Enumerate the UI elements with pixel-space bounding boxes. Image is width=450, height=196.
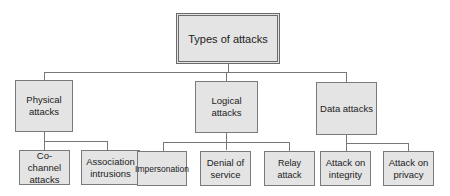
connector-root-down <box>228 64 229 72</box>
connector-to-association <box>107 141 108 150</box>
node-label: Attack on privacy <box>386 157 431 181</box>
node-association-intrusions: Association intrusions <box>81 150 140 185</box>
connector-data-bar <box>346 143 409 144</box>
node-label: Association intrusions <box>84 156 137 180</box>
connector-to-privacy <box>408 143 409 151</box>
connector-to-data <box>346 72 347 82</box>
connector-to-relay <box>289 142 290 151</box>
node-label: Types of attacks <box>188 33 267 45</box>
node-label: Denial of service <box>203 157 248 181</box>
node-label: Physical attacks <box>26 94 61 118</box>
connector-physical-bar <box>44 141 107 142</box>
node-relay-attack: Relay attack <box>264 151 315 186</box>
node-attack-on-integrity: Attack on integrity <box>320 151 371 186</box>
node-types-of-attacks: Types of attacks <box>176 13 280 64</box>
node-co-channel-attacks: Co-channel attacks <box>19 150 70 185</box>
node-label: Data attacks <box>320 103 373 115</box>
node-impersonation: Impersonation <box>137 151 187 186</box>
node-label: Impersonation <box>135 163 189 175</box>
connector-to-logical <box>226 72 227 81</box>
connector-to-physical <box>44 72 45 80</box>
node-label: Attack on integrity <box>323 157 368 181</box>
connector-level1-bar <box>44 72 347 73</box>
connector-to-impersonation <box>163 142 164 151</box>
node-denial-of-service: Denial of service <box>200 151 251 186</box>
node-label: Co-channel attacks <box>22 150 67 186</box>
node-label: Relay attack <box>265 157 314 181</box>
node-logical-attacks: Logical attacks <box>195 81 258 133</box>
node-attack-on-privacy: Attack on privacy <box>383 151 434 186</box>
node-data-attacks: Data attacks <box>316 82 377 135</box>
node-physical-attacks: Physical attacks <box>15 80 73 132</box>
connector-logical-bar <box>163 142 290 143</box>
node-label: Logical attacks <box>198 95 255 119</box>
